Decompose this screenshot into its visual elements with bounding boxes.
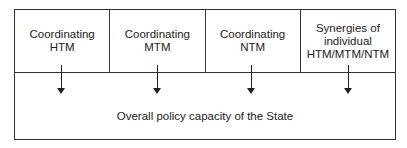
target-label: Overall policy capacity of the State (15, 110, 395, 122)
box-label-line2: HTM (30, 41, 95, 54)
box-label-line1: Coordinating (125, 28, 190, 41)
box-coordinating-mtm: Coordinating MTM (110, 10, 205, 72)
arrow-down-icon (57, 65, 66, 95)
box-coordinating-ntm: Coordinating NTM (206, 10, 301, 72)
box-label-line2: NTM (220, 41, 285, 54)
box-coordinating-htm: Coordinating HTM (15, 10, 110, 72)
box-label-line1: Coordinating (220, 28, 285, 41)
box-synergies: Synergies of individual HTM/MTM/NTM (301, 10, 395, 72)
box-label-line2: MTM (125, 41, 190, 54)
arrow-down-icon (153, 65, 162, 95)
box-label-line3: HTM/MTM/NTM (307, 48, 389, 61)
box-label-line1: Synergies of (307, 22, 389, 35)
arrow-down-icon (247, 65, 256, 95)
source-row: Coordinating HTM Coordinating MTM Coordi… (15, 10, 395, 73)
arrow-down-icon (344, 65, 353, 95)
box-label-line2: individual (307, 35, 389, 48)
box-label-line1: Coordinating (30, 28, 95, 41)
diagram-frame: Coordinating HTM Coordinating MTM Coordi… (14, 9, 396, 140)
